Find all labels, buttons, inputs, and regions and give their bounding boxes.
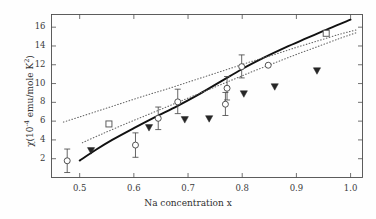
x-tick-label: 0.7 (174, 183, 202, 193)
data-point-open-circle (64, 158, 70, 164)
dotted-upper-curve (63, 30, 356, 122)
data-point-open-circle (239, 64, 245, 70)
data-point-open-circle (265, 62, 271, 68)
data-point-filled-triangle-down (181, 117, 188, 124)
y-axis-title-kelvin-exponent: 2 (23, 59, 31, 63)
y-axis-title-units: emu/mole K (25, 63, 35, 120)
solid-theory-curve (80, 20, 351, 161)
data-point-open-circle (224, 85, 230, 91)
x-tick-label: 0.8 (228, 183, 256, 193)
data-point-filled-triangle-down (313, 68, 320, 75)
dotted-lower-curve (82, 33, 356, 143)
y-axis-title-exponent: -4 (23, 120, 31, 126)
x-tick-label: 0.6 (120, 183, 148, 193)
data-point-filled-triangle-down (240, 91, 247, 98)
model-curves (63, 20, 356, 161)
x-axis-title: Na concentration x (0, 198, 376, 208)
data-point-open-circle (222, 101, 228, 107)
data-point-open-circle (155, 115, 161, 121)
chart-figure: 0.50.60.70.80.91.0 246810121416 Na conce… (0, 0, 376, 219)
axis-ticks (52, 15, 363, 178)
y-axis-title-close-paren: ) (25, 55, 35, 59)
data-point-filled-triangle-down (145, 125, 152, 132)
data-point-open-circle (132, 142, 138, 148)
y-axis-title: χ(10-4 emu/mole K2) (23, 6, 35, 196)
data-point-filled-triangle-down (206, 116, 213, 123)
y-axis-title-chi: χ(10 (25, 126, 35, 146)
data-point-open-circle (175, 99, 181, 105)
data-point-filled-triangle-down (271, 84, 278, 91)
x-tick-label: 1.0 (337, 183, 365, 193)
x-tick-label: 0.5 (66, 183, 94, 193)
data-point-open-square (106, 121, 112, 127)
axis-frame (52, 15, 363, 178)
x-tick-label: 0.9 (282, 183, 310, 193)
data-point-open-square (323, 30, 329, 36)
